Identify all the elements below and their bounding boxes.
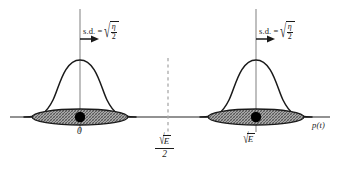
right-sd-numerator: η xyxy=(287,23,293,32)
right-sd-denominator: 2 xyxy=(287,32,293,42)
left-mean-dot xyxy=(75,112,85,122)
left-sd-label: s.d. =√η2 xyxy=(83,21,119,41)
threshold-denominator: 2 xyxy=(155,148,174,160)
right-mean-dot xyxy=(251,112,261,122)
gaussian-decision-diagram xyxy=(0,0,350,174)
right-sd-text: s.d. = xyxy=(259,26,278,36)
right-sd-radical: √η2 xyxy=(279,21,294,41)
radical-sign-icon: √ xyxy=(243,131,248,146)
radical-sign-icon: √ xyxy=(159,133,164,148)
right-mean-label: √E xyxy=(242,127,255,146)
right-sd-label: s.d. =√η2 xyxy=(259,21,295,41)
left-sd-numerator: η xyxy=(111,23,117,32)
left-sd-text: s.d. = xyxy=(83,26,102,36)
decision-threshold-label: √E 2 xyxy=(155,130,174,161)
axis-label-pt: p(t) xyxy=(312,120,325,130)
left-sd-denominator: 2 xyxy=(111,32,117,42)
left-mean-label: 0 xyxy=(77,126,82,136)
left-sd-radical: √η2 xyxy=(103,21,118,41)
